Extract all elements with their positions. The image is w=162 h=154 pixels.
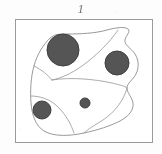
grain-small-lower-left — [33, 101, 51, 119]
thin-section-outline — [31, 28, 139, 136]
grain-medium-upper-right — [105, 51, 129, 75]
grain-tiny-center — [80, 98, 90, 108]
figure-page: 1 — [0, 0, 162, 154]
figure-drawing — [0, 0, 162, 154]
sketch-group — [31, 28, 139, 136]
grain-large-upper-left — [47, 34, 79, 66]
